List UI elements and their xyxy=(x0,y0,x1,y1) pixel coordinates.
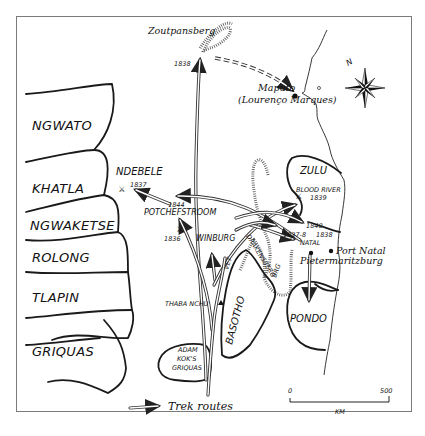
label-potchefstroom: POTCHEFSTROOM xyxy=(144,208,216,217)
label-natal: NATAL xyxy=(300,239,321,247)
scale-bar xyxy=(290,396,389,402)
label-winburg-year: 1836 xyxy=(164,235,181,243)
scale-unit: KM xyxy=(335,408,345,416)
label-khatla: KHATLA xyxy=(32,181,84,196)
label-blood-river: BLOOD RIVER xyxy=(296,186,341,194)
label-ndebele-year: 1837 xyxy=(130,181,147,189)
scale-start: 0 xyxy=(288,387,292,395)
label-adam-kok-2: KOK'S xyxy=(177,355,196,363)
label-thaba-nchu: THABA NCHU xyxy=(165,300,209,308)
winburg-battle-icon: ⚔ xyxy=(177,225,183,234)
compass-north-label: N xyxy=(345,57,355,68)
trek-routes xyxy=(136,58,310,395)
label-griquas: GRIQUAS xyxy=(32,344,94,359)
trek-map: NGWATO KHATLA NGWAKETSE ROLONG TLAPIN GR… xyxy=(0,0,425,436)
label-adam-kok-1: ADAM xyxy=(177,346,198,354)
label-pondo: PONDO xyxy=(290,313,327,324)
label-ngwato: NGWATO xyxy=(32,118,92,133)
label-basotho: BASOTHO xyxy=(223,295,246,346)
legend-trek-routes: Trek routes xyxy=(168,400,233,413)
label-lourenco-marques: (Lourenço Marques) xyxy=(238,94,337,105)
legend-trek-route-arrow-icon xyxy=(130,406,158,408)
label-ndebele: NDEBELE xyxy=(116,166,163,177)
label-tlapin: TLAPIN xyxy=(32,290,79,305)
port-natal-dot xyxy=(329,249,333,253)
compass-rose xyxy=(345,68,385,108)
label-natal-1838: 1838 xyxy=(316,231,333,239)
label-natal-1840: 1840 xyxy=(306,222,323,230)
ndebele-battle-icon: ⚔ xyxy=(119,185,125,194)
label-blood-river-year: 1839 xyxy=(310,194,327,202)
scale-end: 500 xyxy=(380,387,392,395)
islet xyxy=(318,87,321,90)
label-zoutpansberg-year: 1838 xyxy=(174,60,191,68)
label-natal-battle-years: 1837-8 xyxy=(283,231,306,239)
label-adam-kok-3: GRIQUAS xyxy=(172,364,202,372)
label-zulu: ZULU xyxy=(299,165,328,176)
label-zoutpansberg: Zoutpansberg xyxy=(147,25,215,36)
label-rolong: ROLONG xyxy=(32,250,90,265)
label-winburg: WINBURG xyxy=(196,234,235,243)
label-ngwaketse: NGWAKETSE xyxy=(30,218,115,233)
label-pietermaritzburg: Pietermaritzburg xyxy=(299,255,383,266)
label-maputo: Maputo xyxy=(257,82,295,93)
